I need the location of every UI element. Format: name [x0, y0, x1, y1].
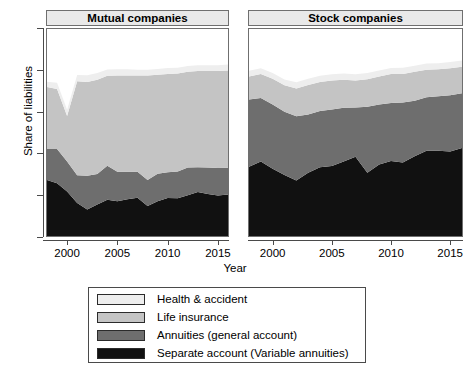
- x-tick-label: 2005: [97, 247, 137, 259]
- legend-swatch: [97, 330, 145, 341]
- y-tick: [37, 28, 43, 29]
- plot-area-mutual-companies: [46, 28, 229, 237]
- x-tick-label: 2010: [371, 247, 411, 259]
- x-tick: [67, 240, 68, 245]
- y-tick: [37, 195, 43, 196]
- legend-swatch: [97, 312, 145, 323]
- y-tick: [37, 153, 43, 154]
- x-tick-label: 2005: [312, 247, 352, 259]
- y-tick: [37, 112, 43, 113]
- y-axis-line: [43, 28, 44, 237]
- x-tick: [450, 240, 451, 245]
- legend-swatch: [97, 294, 145, 305]
- x-tick-label: 2000: [47, 247, 87, 259]
- legend-item: Health & accident: [89, 290, 365, 308]
- x-tick: [391, 240, 392, 245]
- x-tick-label: 2000: [253, 247, 293, 259]
- x-tick: [332, 240, 333, 245]
- legend-label: Separate account (Variable annuities): [157, 347, 349, 359]
- x-axis-line-right: [248, 240, 463, 241]
- legend: Health & accidentLife insuranceAnnuities…: [88, 287, 366, 363]
- x-tick: [218, 240, 219, 245]
- panel-stock-companies: Stock companies: [248, 10, 463, 237]
- x-tick: [168, 240, 169, 245]
- legend-swatch: [97, 348, 145, 359]
- y-tick: [37, 70, 43, 71]
- legend-label: Annuities (general account): [157, 329, 297, 341]
- panel-mutual-companies: Mutual companies: [46, 10, 229, 237]
- x-tick-label: 2015: [198, 247, 238, 259]
- plot-area-stock-companies: [248, 28, 463, 237]
- legend-label: Life insurance: [157, 311, 229, 323]
- panel-title-stock-companies: Stock companies: [248, 10, 463, 26]
- chart-root: Share of liabilities 0.2.4.6.81 Mutual c…: [0, 0, 470, 381]
- x-tick: [117, 240, 118, 245]
- legend-item: Separate account (Variable annuities): [89, 344, 365, 362]
- x-tick-label: 2010: [148, 247, 188, 259]
- x-tick: [273, 240, 274, 245]
- legend-item: Annuities (general account): [89, 326, 365, 344]
- legend-item: Life insurance: [89, 308, 365, 326]
- y-tick: [37, 237, 43, 238]
- legend-label: Health & accident: [157, 293, 247, 305]
- x-tick-label: 2015: [430, 247, 470, 259]
- x-axis-title: Year: [0, 262, 470, 274]
- panel-title-mutual-companies: Mutual companies: [46, 10, 229, 26]
- x-axis-line-left: [43, 240, 229, 241]
- y-axis-title: Share of liabilities: [22, 21, 34, 201]
